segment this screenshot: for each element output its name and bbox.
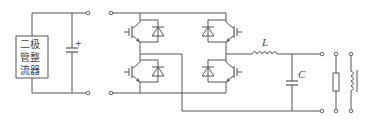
dc-terminal-top-left — [86, 11, 90, 15]
rectifier-label-line2: 管整 — [20, 51, 40, 63]
output-terminal-top — [320, 52, 324, 56]
inductor-label: L — [261, 36, 268, 48]
rectifier-label-line1: 二极 — [20, 38, 40, 50]
igbt-rt-collector — [226, 22, 233, 28]
load-inductor-coil — [351, 71, 354, 91]
dc-link-capacitor: + — [66, 13, 82, 93]
inverter-terminal-top — [109, 11, 113, 15]
rectifier-bottom-wire — [32, 78, 86, 93]
inverter-terminal-bottom — [109, 91, 113, 95]
igbt-left-top — [124, 13, 164, 52]
igbt-left-bottom — [124, 52, 164, 93]
output-terminal-bottom — [320, 109, 324, 113]
load-resistor — [333, 52, 339, 113]
rectifier-label-line3: 流器 — [20, 64, 40, 76]
igbt-right-bottom — [202, 52, 242, 93]
capacitor-label: C — [298, 68, 306, 80]
left-leg-output-wire — [140, 54, 320, 111]
dc-cap-plus-mark: + — [75, 39, 82, 48]
resistor-terminal-top — [334, 52, 338, 56]
dc-terminal-bottom-left — [86, 91, 90, 95]
filter-capacitor: C — [286, 54, 306, 111]
igbt-rb-collector — [226, 62, 233, 68]
igbt-right-top — [202, 13, 242, 52]
resistor-terminal-bottom — [334, 109, 338, 113]
load-inductor — [349, 52, 357, 113]
resistor-body — [333, 73, 339, 91]
inductor-coil — [252, 52, 277, 55]
igbt-lt-collector — [133, 22, 140, 28]
diode-rectifier-block: 二极 管整 流器 — [16, 13, 86, 93]
rectifier-top-wire — [32, 13, 86, 36]
load-inductor-terminal-top — [349, 52, 353, 56]
igbt-lb-collector — [133, 62, 140, 68]
load-inductor-terminal-bottom — [349, 109, 353, 113]
filter-inductor: L — [252, 36, 277, 54]
circuit-diagram: 二极 管整 流器 + — [0, 0, 369, 121]
